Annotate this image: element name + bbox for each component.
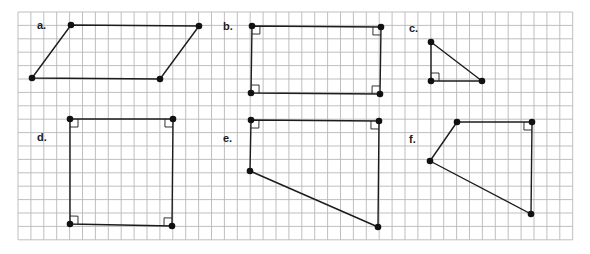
vertex-dot bbox=[479, 78, 486, 85]
figure-b: b. bbox=[223, 20, 384, 97]
figure-label-f: f. bbox=[409, 133, 416, 145]
vertex-dot bbox=[248, 117, 255, 124]
vertex-dot bbox=[169, 223, 176, 230]
vertex-dot bbox=[67, 116, 74, 123]
vertex-dot bbox=[196, 23, 203, 30]
vertex-dot bbox=[377, 91, 384, 98]
figure-a: a. bbox=[29, 19, 203, 82]
vertex-dot bbox=[428, 39, 435, 46]
vertex-dot bbox=[247, 168, 254, 175]
vertex-dot bbox=[375, 224, 382, 231]
figure-c: c. bbox=[409, 22, 485, 84]
figure-label-b: b. bbox=[223, 20, 233, 32]
vertex-dot bbox=[170, 116, 177, 123]
vertex-dot bbox=[454, 119, 461, 126]
vertex-dot bbox=[248, 90, 255, 97]
vertex-dot bbox=[67, 221, 74, 228]
figure-outline-f bbox=[430, 122, 532, 214]
figure-label-e: e. bbox=[223, 132, 232, 144]
vertex-dot bbox=[68, 22, 75, 29]
figure-f: f. bbox=[409, 119, 535, 218]
vertex-dot bbox=[528, 211, 535, 218]
vertex-dot bbox=[249, 23, 256, 30]
vertex-dot bbox=[376, 118, 383, 125]
vertex-dot bbox=[157, 76, 164, 83]
vertex-dot bbox=[378, 24, 385, 31]
figure-label-d: d. bbox=[37, 131, 47, 143]
graph-paper-grid bbox=[18, 12, 573, 240]
figures: a.b.c.d.e.f. bbox=[29, 19, 536, 230]
figure-label-c: c. bbox=[409, 22, 418, 34]
figure-outline-b bbox=[251, 26, 381, 94]
vertex-dot bbox=[29, 75, 36, 82]
vertex-dot bbox=[427, 158, 434, 165]
figure-label-a: a. bbox=[37, 19, 46, 31]
geometry-worksheet: a.b.c.d.e.f. bbox=[0, 0, 590, 254]
vertex-dot bbox=[529, 119, 536, 126]
vertex-dot bbox=[428, 78, 435, 85]
